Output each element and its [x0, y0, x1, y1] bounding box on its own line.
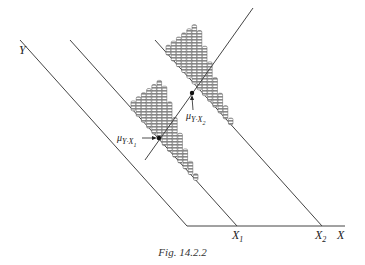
histogram-column	[193, 174, 198, 181]
histogram-column	[202, 46, 207, 96]
histogram-column	[141, 93, 146, 123]
histogram-column	[176, 37, 181, 67]
histogram-column	[218, 93, 223, 113]
histogram-x1	[131, 80, 198, 180]
histogram-x2	[166, 25, 233, 125]
histogram-column	[152, 85, 157, 135]
regression-diagram	[0, 0, 365, 265]
x2-label-sub: 2	[322, 235, 326, 244]
histogram-column	[167, 102, 172, 152]
mean-point-x1	[157, 136, 161, 140]
histogram-column	[223, 106, 228, 119]
histogram-column	[157, 80, 162, 139]
histogram-column	[131, 101, 136, 111]
mu2-label: μY·X2	[186, 111, 205, 126]
y-axis-label-text: Y	[19, 43, 26, 57]
histogram-column	[162, 86, 167, 145]
x2-plane-line	[155, 40, 322, 226]
x-axis-label: X	[337, 229, 344, 241]
mu1-sub: Y·X	[122, 137, 133, 146]
histogram-column	[187, 29, 192, 79]
x1-label: X1	[232, 229, 243, 244]
histogram-column	[228, 118, 233, 125]
x1-label-sub: 1	[239, 235, 243, 244]
x2-label: X2	[315, 229, 326, 244]
mu1-label: μY·X1	[117, 133, 136, 148]
mean-point-x2	[190, 91, 194, 95]
histogram-column	[166, 45, 171, 55]
figure-caption: Fig. 14.2.2	[0, 246, 365, 258]
x-axis-label-text: X	[337, 228, 344, 242]
histogram-column	[136, 97, 141, 117]
histogram-column	[182, 33, 187, 73]
histogram-column	[147, 89, 152, 129]
histogram-column	[173, 118, 178, 158]
mu2-subsub: 2	[202, 120, 205, 126]
mu2-sub: Y·X	[191, 115, 202, 124]
histogram-column	[183, 149, 188, 169]
mu1-subsub: 1	[133, 142, 136, 148]
histogram-column	[171, 41, 176, 61]
histogram-column	[188, 161, 193, 174]
y-axis-label: Y	[19, 44, 26, 56]
histogram-column	[213, 78, 218, 108]
histogram-column	[192, 25, 197, 84]
histogram-column	[178, 133, 183, 163]
